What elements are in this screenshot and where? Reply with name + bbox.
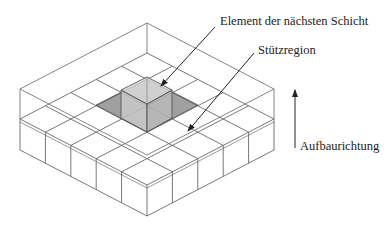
build-layer-diagram	[0, 0, 392, 227]
next-layer-element-cube	[121, 77, 172, 132]
lower-layer	[20, 119, 274, 216]
support-region-pointer-arrow	[188, 53, 254, 131]
support-region-label: Stützregion	[258, 44, 316, 57]
next-layer-pointer-arrow	[161, 27, 215, 86]
next-layer-element-label: Element der nächsten Schicht	[220, 15, 368, 28]
build-direction-label: Aufbaurichtung	[300, 140, 379, 153]
